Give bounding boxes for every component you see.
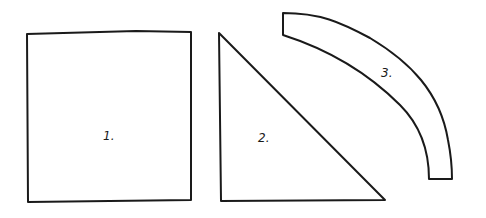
diagram-canvas [0,0,486,218]
triangle-label: 2. [258,131,269,145]
arc-band-label: 3. [381,66,392,80]
square-shape [27,31,191,202]
triangle-shape [219,33,385,201]
square-label: 1. [103,129,114,143]
arc-band-shape [283,13,452,179]
